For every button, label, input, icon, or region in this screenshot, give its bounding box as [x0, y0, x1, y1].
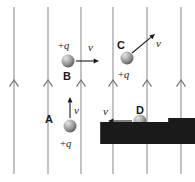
field-line: [10, 7, 18, 174]
charge-label-c: +q: [118, 70, 129, 81]
particle-label-b: B: [63, 71, 71, 82]
charge-label-a: +q: [60, 139, 71, 150]
charge-sphere-b: [62, 55, 75, 68]
velocity-label-b: v: [88, 42, 93, 53]
velocity-arrowhead-icon-a: [68, 97, 73, 102]
velocity-label-d: v: [103, 106, 108, 117]
particle-label-a: A: [45, 114, 53, 125]
field-line: [44, 7, 52, 174]
velocity-label-c: v: [156, 38, 161, 49]
physics-diagram: A+qvB+qvC+qvD+qv: [0, 0, 195, 182]
velocity-label-a: v: [74, 105, 79, 116]
charge-label-b: +q: [58, 41, 69, 52]
particle-label-c: C: [117, 40, 125, 51]
